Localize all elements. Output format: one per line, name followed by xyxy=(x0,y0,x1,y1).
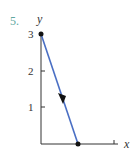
x-axis-label: x xyxy=(123,137,130,151)
start-point xyxy=(39,32,44,37)
y-tick-label-1: 1 xyxy=(28,101,34,113)
curve-line xyxy=(41,34,78,144)
y-axis-label: y xyxy=(36,12,43,26)
end-point xyxy=(76,142,81,147)
y-tick-label-3: 3 xyxy=(28,28,34,40)
y-tick-label-2: 2 xyxy=(28,65,34,77)
parametric-plot: y x 3 2 1 xyxy=(0,0,133,152)
